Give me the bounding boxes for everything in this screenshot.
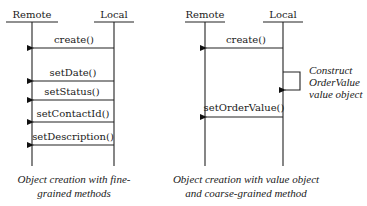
self-call-loop-arrow <box>283 72 300 90</box>
self-call-note-line3: value object <box>309 88 363 100</box>
left-caption-line1: Object creation with fine- <box>18 173 131 185</box>
sequence-diagrams: Remote Local create() setDate() setStatu… <box>0 0 367 206</box>
right-caption-line1: Object creation with value object <box>173 173 320 185</box>
message-label-setdate: setDate() <box>50 67 97 78</box>
message-label-setstatus: setStatus() <box>44 86 99 97</box>
right-remote-label: Remote <box>186 9 225 20</box>
left-sequence-diagram: Remote Local create() setDate() setStatu… <box>6 9 134 199</box>
right-caption-line2: and coarse-grained method <box>185 187 307 199</box>
message-label-setdescription: setDescription() <box>32 131 114 142</box>
self-call-note-line2: OrderValue <box>309 76 360 88</box>
left-remote-label: Remote <box>13 9 52 20</box>
message-label-setcontactid: setContactId() <box>37 108 110 119</box>
left-caption-line2: grained methods <box>37 187 111 199</box>
right-local-label: Local <box>269 9 296 20</box>
message-label-create-right: create() <box>226 34 266 45</box>
left-local-label: Local <box>100 9 127 20</box>
right-sequence-diagram: Remote Local create() Construct OrderVal… <box>173 9 364 199</box>
message-label-create: create() <box>54 34 94 45</box>
message-label-setordervalue: setOrderValue() <box>204 102 285 113</box>
self-call-note-line1: Construct <box>309 64 353 76</box>
